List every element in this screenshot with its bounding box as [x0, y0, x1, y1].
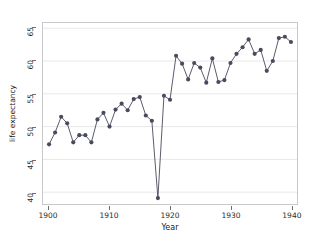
x-axis-title: Year [42, 223, 298, 232]
y-axis-tick-labels: 404550556065 [0, 22, 31, 205]
data-point [174, 54, 178, 58]
data-point [65, 121, 69, 125]
data-point [138, 95, 142, 99]
x-axis-tick-labels: 19001910192019301940 [42, 206, 298, 224]
data-point [107, 125, 111, 129]
data-point [77, 133, 81, 137]
data-point [289, 40, 293, 44]
data-point [144, 113, 148, 117]
y-tick-label-40: 40 [27, 193, 36, 203]
data-point [253, 52, 257, 56]
x-tick-label-1920: 1920 [160, 211, 179, 220]
data-point [89, 140, 93, 144]
data-point [47, 142, 51, 146]
data-point [265, 69, 269, 73]
y-tick-label-60: 60 [27, 60, 36, 70]
data-point [71, 140, 75, 144]
data-point [222, 78, 226, 82]
data-point [259, 48, 263, 52]
x-tick-label-1910: 1910 [100, 211, 119, 220]
data-point [150, 119, 154, 123]
x-tick-label-1940: 1940 [282, 211, 301, 220]
x-tick-label-1930: 1930 [221, 211, 240, 220]
data-point [101, 111, 105, 115]
data-point [113, 107, 117, 111]
data-point [247, 37, 251, 41]
data-point [126, 108, 130, 112]
data-point [240, 45, 244, 49]
data-point [83, 133, 87, 137]
data-point [228, 61, 232, 65]
chart-figure: life expectancy 404550556065 19001910192… [0, 0, 317, 251]
data-point [120, 102, 124, 106]
data-point [132, 97, 136, 101]
plot-area [42, 22, 298, 205]
x-tick-label-1900: 1900 [39, 211, 58, 220]
y-tick-mark-55 [32, 94, 36, 95]
y-tick-mark-50 [32, 127, 36, 128]
y-tick-mark-65 [32, 27, 36, 28]
x-tick-mark-1900 [48, 206, 49, 210]
data-point [156, 196, 160, 200]
y-tick-label-50: 50 [27, 127, 36, 137]
data-point [210, 56, 214, 60]
data-point [216, 80, 220, 84]
y-tick-mark-40 [32, 193, 36, 194]
x-tick-mark-1930 [231, 206, 232, 210]
y-tick-mark-45 [32, 160, 36, 161]
data-point [204, 81, 208, 85]
data-point [59, 115, 63, 119]
data-point [234, 52, 238, 56]
data-point [180, 62, 184, 66]
data-point [95, 117, 99, 121]
x-tick-mark-1910 [109, 206, 110, 210]
data-point [162, 94, 166, 98]
data-point [277, 36, 281, 40]
y-tick-label-55: 55 [27, 94, 36, 104]
y-tick-label-45: 45 [27, 160, 36, 170]
x-tick-mark-1940 [292, 206, 293, 210]
data-point [192, 61, 196, 65]
data-series-life-expectancy [43, 23, 297, 204]
x-tick-mark-1920 [170, 206, 171, 210]
y-tick-mark-60 [32, 60, 36, 61]
data-point [271, 59, 275, 63]
data-point [283, 35, 287, 39]
series-line [49, 37, 291, 198]
data-point [53, 130, 57, 134]
data-point [198, 66, 202, 70]
data-point [168, 98, 172, 102]
y-tick-label-65: 65 [27, 27, 36, 37]
data-point [186, 77, 190, 81]
